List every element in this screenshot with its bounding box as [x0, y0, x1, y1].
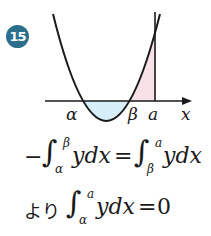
integral-lower-limit: α [79, 213, 87, 227]
integral-lower-limit: α [55, 162, 63, 176]
label-alpha: α [66, 106, 77, 123]
equation-line-2: より ∫ a α ydx = 0 [0, 183, 211, 233]
integrand: ydx [72, 143, 111, 168]
equals-sign: = [138, 194, 156, 219]
label-a: a [148, 106, 158, 123]
label-beta: β [128, 106, 138, 123]
integrand: ydx [163, 143, 202, 168]
parabola-graph [0, 0, 211, 130]
integral-upper-limit: a [87, 187, 94, 201]
equation-line-1: − ∫ β α ydx = ∫ a β ydx [0, 132, 211, 182]
integral-upper-limit: a [155, 136, 162, 150]
minus-sign: − [24, 144, 42, 169]
integral-upper-limit: β [63, 136, 70, 150]
integral-lower-limit: β [147, 162, 154, 176]
label-x: x [181, 106, 191, 123]
result-zero: 0 [157, 194, 171, 219]
integrand: ydx [96, 194, 135, 219]
conclusion-prefix: より [24, 197, 60, 223]
equals-sign: = [114, 143, 132, 168]
